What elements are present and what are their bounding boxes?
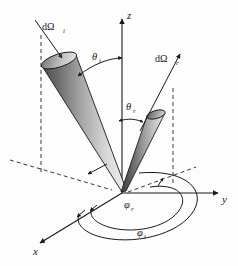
x-axis — [40, 193, 122, 243]
phi-r-label: φ — [124, 199, 130, 210]
theta-i-subscript: i — [99, 57, 101, 65]
incident-ground-dashed-line — [10, 160, 112, 190]
incident-azimuth-arrowhead — [88, 164, 107, 174]
brdf-diagram-svg: z y x dΩ i dΩ r θ i θ r φ r φ i — [0, 0, 238, 266]
y-axis-label: y — [221, 193, 227, 205]
reflected-azimuth-arrowhead — [158, 178, 163, 186]
d-omega-i-subscript: i — [63, 27, 65, 35]
theta-r-label: θ — [126, 101, 131, 112]
x-axis-label: x — [32, 245, 38, 257]
theta-r-subscript: r — [133, 107, 136, 115]
phi-i-subscript: i — [144, 233, 146, 241]
theta-i-label: θ — [92, 51, 97, 62]
z-axis-label: z — [126, 9, 132, 21]
theta-r-arc — [119, 119, 143, 122]
incident-cone — [39, 49, 126, 192]
d-omega-r-subscript: r — [176, 59, 179, 67]
d-omega-r-label: dΩ — [155, 53, 167, 64]
reflected-cone — [121, 108, 166, 192]
d-omega-i-label: dΩ — [42, 21, 54, 32]
phi-r-subscript: r — [131, 205, 134, 213]
phi-i-label: φ — [137, 227, 143, 238]
incident-cone-body — [42, 55, 126, 192]
brdf-geometry-figure: z y x dΩ i dΩ r θ i θ r φ r φ i — [0, 0, 238, 266]
